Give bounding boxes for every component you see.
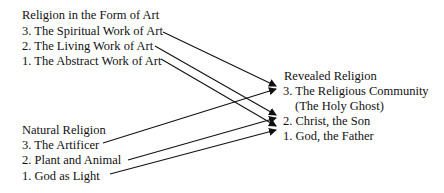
arrow-abstract-to-father: [161, 59, 276, 126]
arrow-light-to-father: [110, 130, 276, 174]
art-heading: Religion in the Form of Art: [22, 8, 159, 23]
art-item-3: 3. The Spiritual Work of Art: [22, 24, 163, 39]
art-item-1: 1. The Abstract Work of Art: [22, 54, 161, 69]
revealed-item-1: 1. God, the Father: [283, 129, 374, 144]
natural-heading: Natural Religion: [22, 123, 106, 138]
revealed-item-2: 2. Christ, the Son: [283, 114, 370, 129]
natural-item-3: 3. The Artificer: [22, 138, 99, 153]
arrow-plant-to-christ: [128, 118, 276, 160]
natural-item-1: 1. God as Light: [22, 169, 100, 184]
revealed-heading: Revealed Religion: [284, 69, 377, 84]
arrow-spiritual-to-community: [163, 32, 276, 86]
arrow-artificer-to-community: [103, 89, 276, 143]
hegel-religion-diagram: Religion in the Form of Art 3. The Spiri…: [0, 0, 444, 193]
revealed-item-3: 3. The Religious Community: [283, 84, 429, 99]
arrow-living-to-christ: [155, 46, 276, 115]
art-item-2: 2. The Living Work of Art: [22, 39, 153, 54]
natural-item-2: 2. Plant and Animal: [22, 153, 121, 168]
revealed-item-3-sub: (The Holy Ghost): [295, 99, 384, 114]
